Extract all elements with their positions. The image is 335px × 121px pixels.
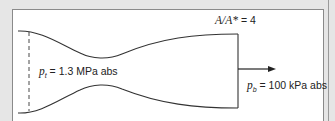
inlet-pressure-label: pt = 1.3 MPa abs bbox=[39, 65, 118, 79]
back-pressure-label: pb = 100 kPa abs bbox=[247, 79, 327, 93]
nozzle-upper-wall bbox=[18, 31, 238, 58]
flow-arrow-head bbox=[268, 66, 276, 72]
area-ratio-symbol: A/A* bbox=[215, 14, 238, 26]
back-pressure-value: = 100 kPa abs bbox=[257, 79, 327, 91]
area-ratio-value: = 4 bbox=[238, 14, 256, 26]
nozzle-lower-wall bbox=[18, 85, 238, 113]
nozzle-diagram bbox=[0, 0, 335, 121]
inlet-pressure-value: = 1.3 MPa abs bbox=[47, 65, 118, 77]
area-ratio-label: A/A* = 4 bbox=[215, 14, 256, 26]
